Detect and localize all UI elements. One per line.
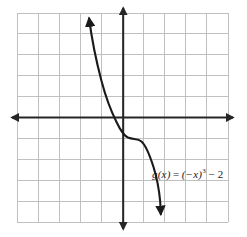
equation-equals: = [173, 168, 179, 180]
equation-exponent: 3 [202, 167, 206, 175]
equation-base: (−x) [182, 168, 202, 180]
cubic-curve [89, 19, 161, 215]
equation-constant: − 2 [208, 168, 223, 180]
coordinate-plane [0, 0, 247, 237]
equation-argument: (x) [158, 168, 171, 180]
equation-label: g(x) = (−x)3 − 2 [152, 168, 223, 180]
graph-figure: g(x) = (−x)3 − 2 [0, 0, 247, 237]
